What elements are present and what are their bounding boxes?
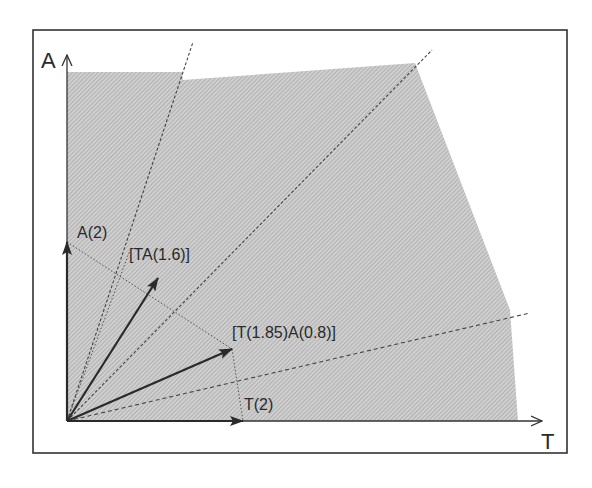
label-a2: A(2): [77, 225, 107, 241]
label-ta: [TA(1.6)]: [129, 247, 190, 263]
a-axis-label: A: [41, 50, 56, 72]
diagram-canvas: [0, 0, 592, 488]
shaded-region: [67, 63, 518, 421]
t-axis-label: T: [541, 431, 554, 453]
label-t2: T(2): [244, 397, 273, 413]
label-t-a: [T(1.85)A(0.8)]: [232, 325, 336, 341]
